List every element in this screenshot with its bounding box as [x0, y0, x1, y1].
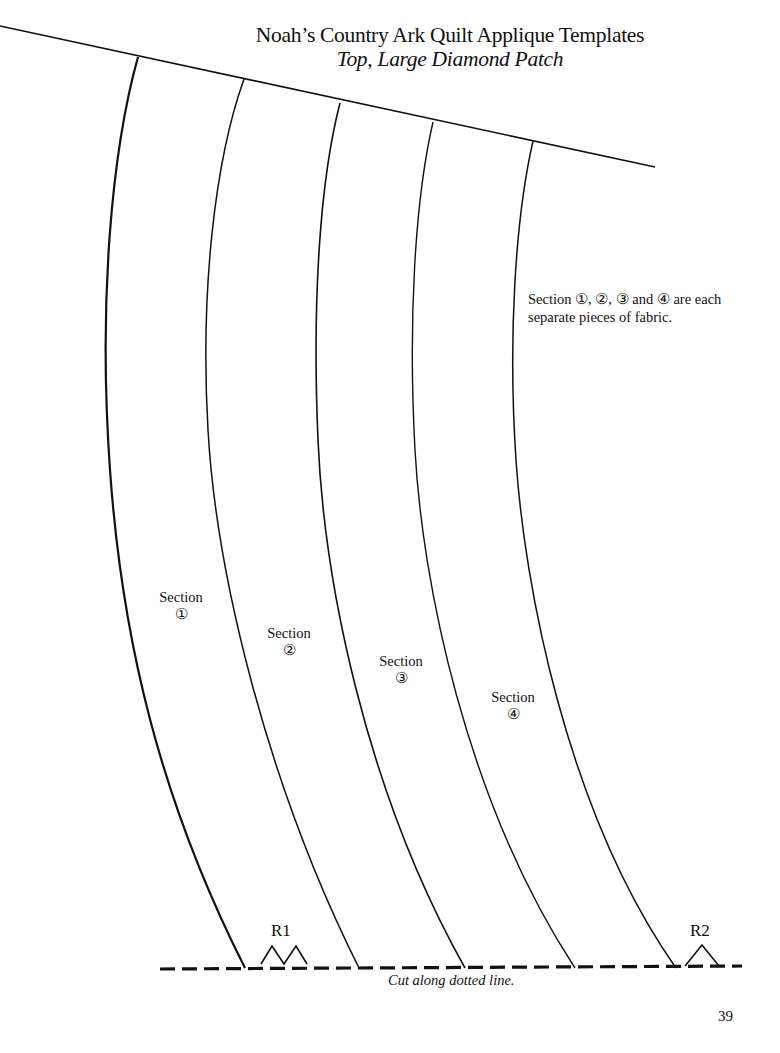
section-3-label: Section ③	[366, 653, 436, 687]
section-number: ④	[478, 706, 548, 723]
template-drawing	[0, 0, 780, 1053]
section-label-text: Section	[478, 689, 548, 706]
section-boundary-3	[316, 103, 465, 968]
section-boundary-2	[206, 79, 359, 968]
section-4-label: Section ④	[478, 689, 548, 723]
section-note: Section ①, ②, ③ and ④ are each separate …	[528, 290, 778, 326]
section-number: ①	[146, 606, 216, 623]
section-label-text: Section	[254, 625, 324, 642]
section-label-text: Section	[146, 589, 216, 606]
section-label-text: Section	[366, 653, 436, 670]
top-edge-line	[0, 26, 655, 167]
cut-line	[160, 966, 742, 969]
r1-label: R1	[271, 921, 291, 941]
section-boundary-5	[513, 141, 676, 968]
section-note-line-2: separate pieces of fabric.	[528, 308, 778, 326]
section-number: ③	[366, 670, 436, 687]
cut-instruction: Cut along dotted line.	[388, 972, 514, 989]
section-boundary-1	[106, 57, 245, 968]
page-number: 39	[718, 1008, 733, 1025]
section-2-label: Section ②	[254, 625, 324, 659]
section-1-label: Section ①	[146, 589, 216, 623]
section-number: ②	[254, 642, 324, 659]
section-note-line-1: Section ①, ②, ③ and ④ are each	[528, 290, 778, 308]
r2-label: R2	[690, 921, 710, 941]
section-boundary-4	[412, 122, 575, 968]
r1-mark	[261, 946, 307, 964]
r2-mark	[685, 945, 719, 966]
